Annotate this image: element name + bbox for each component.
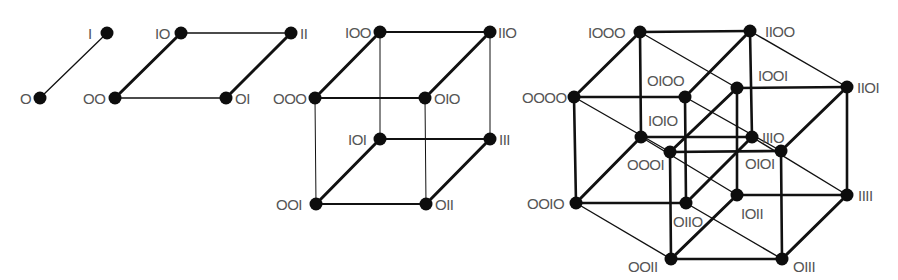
edge-0101-0111 bbox=[781, 151, 782, 259]
vertex-label-0000: OOOO bbox=[522, 89, 567, 106]
vertex-label-1010: IOIO bbox=[648, 112, 678, 129]
vertex-label-1011: IOII bbox=[741, 205, 763, 222]
vertex-label-0011: OOII bbox=[628, 258, 658, 275]
vertex-10 bbox=[175, 27, 188, 40]
edge-0000-0010 bbox=[574, 97, 576, 203]
figure-dim1-edges bbox=[40, 33, 107, 98]
edge-1000-1100 bbox=[640, 31, 750, 32]
vertex-label-001: OOI bbox=[276, 196, 302, 213]
edge-010-011 bbox=[425, 98, 426, 204]
vertex-label-011: OII bbox=[435, 196, 454, 213]
vertex-label-000: OOO bbox=[273, 90, 307, 107]
vertex-label-111: III bbox=[499, 131, 510, 148]
vertex-label-0: O bbox=[20, 90, 31, 107]
edge-000-001 bbox=[315, 98, 316, 204]
vertex-label-1101: IIOI bbox=[857, 79, 879, 96]
vertex-101 bbox=[374, 133, 387, 146]
vertex-00 bbox=[109, 92, 122, 105]
vertex-1101 bbox=[841, 81, 854, 94]
vertex-label-0010: OOIO bbox=[527, 195, 564, 212]
vertex-000 bbox=[309, 92, 322, 105]
vertex-0101 bbox=[775, 145, 788, 158]
vertex-label-1000: IOOO bbox=[588, 24, 625, 41]
vertex-01 bbox=[220, 92, 233, 105]
vertex-label-1: I bbox=[88, 25, 92, 42]
edge-1000-1010 bbox=[640, 32, 641, 137]
edge-01-11 bbox=[226, 33, 291, 98]
vertex-label-0111: OIII bbox=[793, 258, 815, 275]
edge-000-100 bbox=[315, 32, 380, 98]
edge-0101-1101 bbox=[781, 87, 847, 151]
vertex-label-0001: OOOI bbox=[627, 156, 664, 173]
vertex-001 bbox=[310, 198, 323, 211]
vertex-0011 bbox=[665, 253, 678, 266]
vertex-label-01: OI bbox=[235, 90, 250, 107]
figure-dim2-edges bbox=[115, 33, 291, 98]
figure-dim1-labels: OI bbox=[20, 25, 92, 107]
vertex-1010 bbox=[635, 131, 648, 144]
figure-dim4-edges bbox=[574, 31, 847, 259]
vertex-label-10: IO bbox=[155, 25, 170, 42]
vertex-0110 bbox=[680, 197, 693, 210]
edge-0100-0110 bbox=[685, 97, 686, 203]
vertex-1000 bbox=[634, 26, 647, 39]
vertex-0010 bbox=[570, 197, 583, 210]
vertex-1011 bbox=[731, 189, 744, 202]
figure-dim3-labels: OOOOIOIOOIIOOOIOIIIOIIII bbox=[273, 24, 517, 213]
vertex-label-0101: OIOI bbox=[745, 155, 775, 172]
vertex-0 bbox=[34, 92, 47, 105]
vertex-label-0100: OIOO bbox=[647, 72, 684, 89]
edge-001-101 bbox=[316, 139, 380, 204]
vertex-11 bbox=[285, 27, 298, 40]
vertex-110 bbox=[484, 26, 497, 39]
edge-0111-1111 bbox=[782, 195, 847, 259]
vertex-0001 bbox=[664, 146, 677, 159]
edge-0010-0011 bbox=[576, 203, 671, 259]
edge-010-110 bbox=[425, 32, 490, 98]
vertex-1 bbox=[101, 27, 114, 40]
edge-1001-1101 bbox=[737, 87, 847, 88]
edge-0001-0011 bbox=[670, 152, 671, 259]
vertex-label-1001: IOOI bbox=[758, 67, 788, 84]
vertex-label-010: OIO bbox=[434, 90, 460, 107]
vertex-0111 bbox=[776, 253, 789, 266]
vertex-1111 bbox=[841, 189, 854, 202]
figure-dim2-nodes bbox=[109, 27, 298, 105]
vertex-label-1111: IIII bbox=[858, 187, 873, 204]
vertex-0000 bbox=[568, 91, 581, 104]
edges-layer bbox=[40, 31, 847, 259]
vertex-label-11: II bbox=[300, 25, 307, 42]
edge-0-1 bbox=[40, 33, 107, 98]
vertex-1001 bbox=[731, 82, 744, 95]
vertex-label-110: IIO bbox=[498, 24, 517, 41]
edge-0000-1000 bbox=[574, 32, 640, 97]
vertex-label-00: OO bbox=[83, 90, 105, 107]
vertex-011 bbox=[420, 198, 433, 211]
vertex-010 bbox=[419, 92, 432, 105]
vertex-label-0110: OIIO bbox=[673, 213, 703, 230]
vertex-1100 bbox=[744, 25, 757, 38]
vertex-100 bbox=[374, 26, 387, 39]
edge-1100-1110 bbox=[750, 31, 752, 137]
vertex-label-101: IOI bbox=[348, 131, 367, 148]
vertex-0100 bbox=[679, 91, 692, 104]
figure-dim3-edges bbox=[315, 32, 490, 204]
hypercube-diagram: OIOOOIIOIIOOOOIOIOOIIOOOIOIIIOIIIIOOOOOI… bbox=[0, 0, 898, 280]
edge-00-10 bbox=[115, 33, 181, 98]
vertex-label-1100: IIOO bbox=[765, 23, 795, 40]
vertex-1110 bbox=[746, 131, 759, 144]
vertex-111 bbox=[484, 133, 497, 146]
edge-011-111 bbox=[426, 139, 490, 204]
vertex-label-1110: IIIO bbox=[762, 129, 784, 146]
vertex-label-100: IOO bbox=[345, 24, 371, 41]
